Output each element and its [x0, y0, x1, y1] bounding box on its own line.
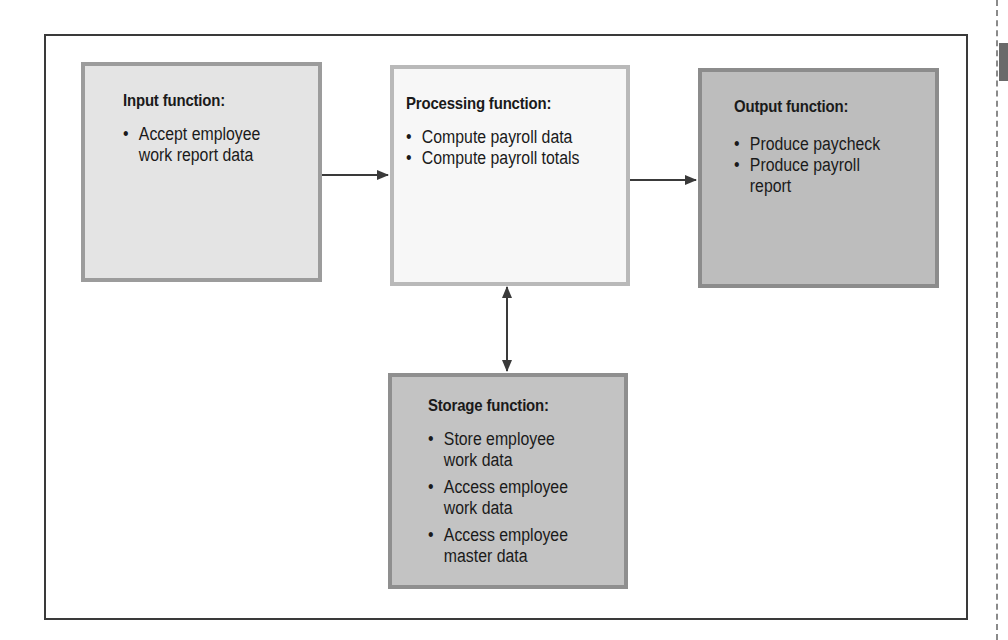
processing-function-title: Processing function:	[406, 94, 551, 114]
storage-bullet-2: Access employee	[428, 477, 568, 498]
output-function-list: Produce paycheck Produce payroll report	[734, 134, 900, 197]
storage-bullet-1-cont: work data	[428, 450, 568, 471]
processing-bullet-1: Compute payroll data	[406, 127, 579, 148]
input-bullet-1-cont: work report data	[123, 145, 260, 166]
output-bullet-2: Produce payroll	[734, 155, 880, 176]
storage-bullet-2-cont: work data	[428, 498, 568, 519]
input-bullet-1: Accept employee	[123, 124, 260, 145]
processing-function-box: Processing function: Compute payroll dat…	[390, 65, 630, 286]
processing-function-list: Compute payroll data Compute payroll tot…	[406, 127, 603, 169]
storage-function-title: Storage function:	[428, 396, 549, 416]
storage-bullet-1: Store employee	[428, 429, 568, 450]
storage-bullet-3-cont: master data	[428, 546, 568, 567]
output-function-title: Output function:	[734, 97, 848, 117]
storage-function-box: Storage function: Store employee work da…	[388, 373, 628, 589]
processing-bullet-2: Compute payroll totals	[406, 148, 579, 169]
input-function-list: Accept employee work report data	[123, 124, 279, 166]
output-function-box: Output function: Produce paycheck Produc…	[698, 68, 939, 288]
input-function-box: Input function: Accept employee work rep…	[81, 62, 322, 282]
input-function-title: Input function:	[123, 91, 225, 111]
storage-function-list: Store employee work data Access employee…	[428, 429, 587, 567]
output-bullet-2-cont: report	[734, 176, 880, 197]
storage-bullet-3: Access employee	[428, 525, 568, 546]
output-bullet-1: Produce paycheck	[734, 134, 880, 155]
